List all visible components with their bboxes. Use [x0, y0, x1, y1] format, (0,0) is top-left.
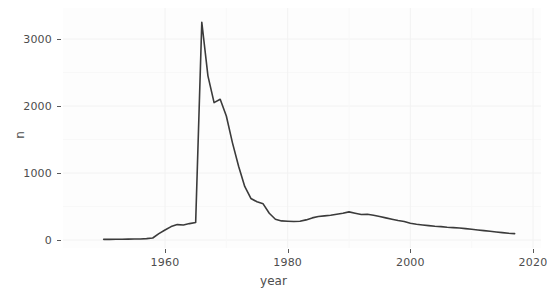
y-tick-label: 2000: [0, 100, 52, 113]
x-tick-mark: [533, 249, 534, 253]
y-axis-title: n: [13, 131, 27, 139]
x-tick-mark: [165, 249, 166, 253]
x-tick-label: 2000: [396, 256, 425, 269]
y-tick-label: 0: [0, 234, 52, 247]
x-axis-title: year: [0, 274, 547, 288]
x-tick-label: 1960: [151, 256, 180, 269]
x-tick-mark: [410, 249, 411, 253]
x-tick-label: 1980: [273, 256, 302, 269]
y-tick-mark: [57, 39, 61, 40]
y-tick-label: 3000: [0, 33, 52, 46]
plot-canvas: [63, 8, 541, 248]
plot-panel: [63, 8, 541, 248]
x-tick-mark: [288, 249, 289, 253]
gridlines: [63, 8, 541, 248]
chart-figure: 0100020003000 n 1960198020002020 year: [0, 0, 547, 300]
y-tick-label: 1000: [0, 167, 52, 180]
x-tick-label: 2020: [519, 256, 547, 269]
y-tick-mark: [57, 106, 61, 107]
y-tick-mark: [57, 173, 61, 174]
y-tick-mark: [57, 240, 61, 241]
